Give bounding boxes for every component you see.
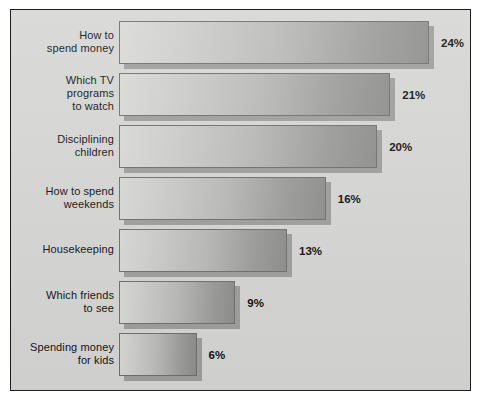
bar-category-label: Housekeeping — [0, 243, 114, 256]
bar-value-label: 24% — [441, 37, 464, 49]
bar-which-friends-to-see[interactable]: 9% — [119, 281, 235, 324]
bar-which-tv-programs-to-watch[interactable]: 21% — [119, 73, 390, 116]
bar-row: Disciplining children 20% — [11, 120, 470, 172]
bar-row: Which friends to see 9% — [11, 276, 470, 328]
bar-disciplining-children[interactable]: 20% — [119, 125, 377, 168]
bar-spending-money-for-kids[interactable]: 6% — [119, 333, 197, 376]
bar-category-label: Which TV programs to watch — [0, 74, 114, 114]
bar-body — [119, 73, 390, 116]
bar-row: Spending money for kids 6% — [11, 328, 470, 380]
bar-category-label: How to spend weekends — [0, 185, 114, 211]
bar-row: Which TV programs to watch 21% — [11, 68, 470, 120]
bar-value-label: 16% — [338, 193, 361, 205]
bar-body — [119, 21, 429, 64]
bar-body — [119, 281, 235, 324]
bar-value-label: 9% — [247, 297, 264, 309]
bar-row: How to spend weekends 16% — [11, 172, 470, 224]
bar-body — [119, 177, 326, 220]
bar-housekeeping[interactable]: 13% — [119, 229, 287, 272]
bar-category-label: Spending money for kids — [0, 341, 114, 367]
bar-chart-plot-area: How to spend money 24% Which TV programs… — [11, 10, 470, 390]
bar-how-to-spend-money[interactable]: 24% — [119, 21, 429, 64]
bar-category-label: How to spend money — [0, 29, 114, 55]
bar-category-label: Which friends to see — [0, 289, 114, 315]
bar-row: Housekeeping 13% — [11, 224, 470, 276]
bar-how-to-spend-weekends[interactable]: 16% — [119, 177, 326, 220]
bar-body — [119, 125, 377, 168]
bar-body — [119, 229, 287, 272]
bar-row: How to spend money 24% — [11, 16, 470, 68]
bar-value-label: 6% — [209, 349, 226, 361]
bar-category-label: Disciplining children — [0, 133, 114, 159]
bar-value-label: 13% — [299, 245, 322, 257]
chart-frame: How to spend money 24% Which TV programs… — [10, 9, 471, 391]
bar-value-label: 20% — [389, 141, 412, 153]
bar-body — [119, 333, 197, 376]
bar-value-label: 21% — [402, 89, 425, 101]
